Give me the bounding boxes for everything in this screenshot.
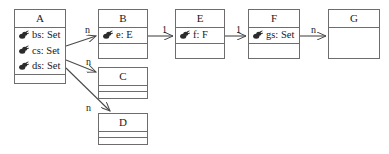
edge-label-a-to-c: n: [86, 57, 91, 67]
class-a-attribute-row[interactable]: ds: Set: [15, 59, 65, 74]
class-a-attribute-row[interactable]: cs: Set: [15, 43, 65, 58]
class-f-title-compartment: F: [249, 10, 299, 28]
class-a-operations-compartment: [15, 75, 65, 83]
uml-class-c[interactable]: C: [98, 67, 148, 99]
class-f-attribute-row[interactable]: gs: Set: [249, 28, 299, 43]
edge-label-b-to-e: 1: [162, 25, 167, 35]
class-a-attribute-label: ds: Set: [32, 61, 60, 72]
uml-class-g[interactable]: G: [328, 9, 380, 59]
class-e-attribute-label: f: F: [193, 30, 208, 41]
class-c-operations-compartment: [99, 92, 147, 98]
class-c-title-compartment: C: [99, 68, 147, 86]
class-g-name: G: [350, 13, 358, 24]
class-d-name: D: [119, 117, 127, 128]
association-end-icon: [179, 30, 190, 41]
uml-class-b[interactable]: B e: E: [98, 9, 148, 59]
class-a-attribute-label: bs: Set: [32, 30, 60, 41]
class-d-operations-compartment: [99, 138, 147, 144]
association-end-icon: [102, 30, 113, 41]
edge-label-e-to-f: 1: [236, 25, 241, 35]
class-a-attribute-label: cs: Set: [32, 46, 60, 57]
class-b-name: B: [119, 13, 126, 24]
class-b-attribute-label: e: E: [116, 30, 133, 41]
class-f-attributes-compartment: gs: Set: [249, 28, 299, 44]
class-a-attributes-compartment: bs: Set cs: Set ds: Set: [15, 28, 65, 75]
association-end-icon: [18, 45, 29, 56]
class-e-attribute-row[interactable]: f: F: [176, 28, 224, 43]
class-g-body-compartment: [329, 28, 379, 58]
class-f-operations-compartment: [249, 44, 299, 58]
class-g-title-compartment: G: [329, 10, 379, 28]
class-b-attributes-compartment: e: E: [99, 28, 147, 44]
class-a-name: A: [36, 13, 44, 24]
class-b-attribute-row[interactable]: e: E: [99, 28, 147, 43]
uml-class-f[interactable]: F gs: Set: [248, 9, 300, 59]
class-a-title-compartment: A: [15, 10, 65, 28]
association-end-icon: [18, 30, 29, 41]
class-e-name: E: [197, 13, 204, 24]
edge-a-to-b: [66, 36, 96, 46]
edge-label-f-to-g: n: [311, 25, 316, 35]
class-c-name: C: [119, 71, 126, 82]
class-b-operations-compartment: [99, 44, 147, 58]
class-e-attributes-compartment: f: F: [176, 28, 224, 44]
association-end-icon: [252, 30, 263, 41]
uml-class-e[interactable]: E f: F: [175, 9, 225, 59]
uml-class-a[interactable]: A bs: Set cs: Set: [14, 9, 66, 84]
class-d-title-compartment: D: [99, 114, 147, 132]
class-b-title-compartment: B: [99, 10, 147, 28]
uml-class-diagram-canvas: A bs: Set cs: Set: [0, 0, 389, 154]
association-end-icon: [18, 61, 29, 72]
edge-label-a-to-d: n: [86, 103, 91, 113]
class-f-attribute-label: gs: Set: [266, 30, 294, 41]
edge-a-to-c: [66, 60, 96, 72]
uml-class-d[interactable]: D: [98, 113, 148, 145]
edge-label-a-to-b: n: [85, 25, 90, 35]
class-a-attribute-row[interactable]: bs: Set: [15, 28, 65, 43]
class-e-operations-compartment: [176, 44, 224, 58]
class-f-name: F: [271, 13, 277, 24]
class-e-title-compartment: E: [176, 10, 224, 28]
